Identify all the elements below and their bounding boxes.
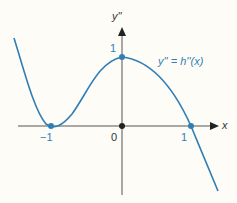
x-axis-arrow-icon: [210, 122, 219, 130]
tick-x-neg1: −1: [40, 131, 53, 143]
point-x-neg1: [48, 123, 54, 129]
tick-y-1: 1: [110, 42, 116, 54]
tick-x-0: 0: [111, 131, 117, 143]
curve-label: y'' = h''(x): [158, 55, 203, 67]
chart-canvas: [0, 0, 237, 203]
x-axis-label: x: [222, 119, 228, 131]
point-x-1: [188, 123, 194, 129]
tick-x-1: 1: [181, 131, 187, 143]
point-y-1: [119, 54, 125, 60]
y-axis-label: y'': [112, 10, 122, 22]
y-axis-arrow-icon: [118, 27, 126, 36]
origin-point: [119, 123, 125, 129]
